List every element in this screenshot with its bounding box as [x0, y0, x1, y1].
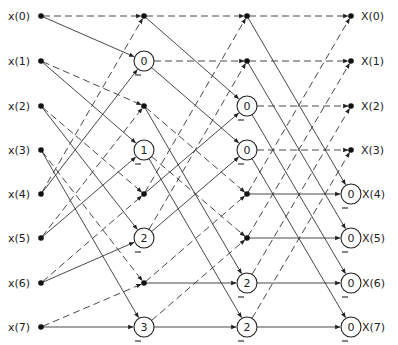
node-dot — [38, 235, 44, 241]
solid-edge — [43, 157, 136, 237]
dashed-edge — [43, 196, 142, 282]
node-dot — [141, 280, 147, 286]
node-dot — [38, 147, 44, 153]
twiddle-exponent: 0 — [141, 55, 148, 68]
output-label: X(1) — [361, 55, 384, 68]
node-dot — [244, 191, 250, 197]
node-dot — [141, 13, 147, 19]
dashed-edge — [43, 284, 141, 326]
edges-layer — [42, 16, 349, 327]
node-dot — [348, 103, 354, 109]
output-label: X(0) — [361, 10, 384, 23]
fft-flow-graph: 012300220000 x(0)x(1)x(2)x(3)x(4)x(5)x(6… — [0, 0, 398, 345]
solid-edge — [248, 63, 345, 229]
node-dot — [38, 58, 44, 64]
node-dot — [348, 58, 354, 64]
twiddle-exponent: 0 — [348, 321, 355, 334]
output-label: X(6) — [362, 277, 385, 290]
node-dot — [348, 13, 354, 19]
twiddle-exponent: 2 — [244, 321, 251, 334]
dashed-edge — [252, 153, 349, 319]
node-dot — [38, 191, 44, 197]
node-dot — [38, 324, 44, 330]
input-label: x(1) — [8, 55, 30, 68]
dashed-edge — [152, 240, 245, 321]
twiddle-exponent: 0 — [348, 277, 355, 290]
node-dot — [348, 147, 354, 153]
solid-edge — [146, 17, 239, 98]
input-label: x(3) — [8, 144, 30, 157]
twiddle-exponent: 2 — [244, 277, 251, 290]
twiddle-exponent: 1 — [141, 144, 148, 157]
dashed-edge — [43, 107, 142, 192]
dashed-edge — [146, 196, 245, 282]
node-dot — [38, 280, 44, 286]
labels-layer: x(0)x(1)x(2)x(3)x(4)x(5)x(6)x(7)X(0)X(1)… — [8, 10, 385, 334]
output-label: X(7) — [362, 321, 385, 334]
node-dot — [244, 58, 250, 64]
output-label: X(3) — [361, 144, 384, 157]
solid-edge — [149, 159, 241, 318]
input-label: x(2) — [8, 100, 30, 113]
twiddle-exponent: 0 — [348, 188, 355, 201]
twiddle-exponent: 2 — [141, 232, 148, 245]
input-label: x(7) — [8, 321, 30, 334]
node-dot — [141, 191, 147, 197]
solid-edge — [248, 18, 345, 185]
output-label: X(2) — [361, 100, 384, 113]
solid-edge — [152, 157, 239, 231]
node-dot — [38, 103, 44, 109]
node-dot — [244, 235, 250, 241]
twiddle-exponent: 0 — [348, 232, 355, 245]
node-dot — [38, 13, 44, 19]
twiddle-exponent: 0 — [244, 100, 251, 113]
output-label: X(4) — [362, 188, 385, 201]
output-label: X(5) — [362, 232, 385, 245]
solid-edge — [42, 152, 138, 318]
dashed-edge — [152, 156, 245, 236]
input-label: x(6) — [8, 277, 30, 290]
input-label: x(4) — [8, 188, 30, 201]
node-dot — [141, 103, 147, 109]
dashed-edge — [145, 19, 245, 193]
twiddle-exponent: 0 — [244, 144, 251, 157]
dashed-edge — [252, 109, 349, 275]
solid-edge — [43, 62, 136, 143]
node-dot — [244, 13, 250, 19]
solid-edge — [43, 17, 134, 57]
twiddle-exponent: 3 — [141, 321, 148, 334]
solid-edge — [43, 242, 134, 282]
input-label: x(0) — [8, 10, 30, 23]
nodes-layer: 012300220000 — [38, 13, 361, 341]
dashed-edge — [42, 19, 142, 193]
input-label: x(5) — [8, 232, 30, 245]
solid-edge — [146, 113, 239, 193]
dashed-edge — [149, 64, 245, 230]
solid-edge — [42, 70, 137, 193]
